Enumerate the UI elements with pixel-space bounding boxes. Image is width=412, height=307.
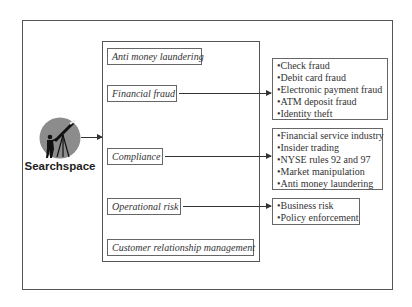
detail-item: Market manipulation xyxy=(277,166,378,178)
telescope-observer-icon xyxy=(39,117,81,159)
searchspace-label: Searchspace xyxy=(14,160,106,172)
category-anti-money-laundering: Anti money laundering xyxy=(107,48,202,65)
compliance-details: Financial service industry Insider tradi… xyxy=(272,128,383,190)
detail-item: Insider trading xyxy=(277,142,378,154)
arrow-compliance xyxy=(165,156,271,157)
detail-item: Electronic payment fraud xyxy=(277,84,383,96)
detail-item: NYSE rules 92 and 97 xyxy=(277,154,378,166)
detail-item: Check fraud xyxy=(277,60,383,72)
detail-item: Business risk xyxy=(277,200,355,212)
arrow-source-to-categories xyxy=(81,137,102,138)
category-operational-risk: Operational risk xyxy=(107,198,181,215)
operational-risk-details: Business risk Policy enforcement xyxy=(272,198,360,225)
detail-item: ATM deposit fraud xyxy=(277,96,383,108)
detail-item: Debit card fraud xyxy=(277,72,383,84)
detail-item: Policy enforcement xyxy=(277,212,355,224)
category-customer-relationship-management: Customer relationship management xyxy=(107,239,254,256)
category-compliance: Compliance xyxy=(107,148,163,165)
financial-fraud-details: Check fraud Debit card fraud Electronic … xyxy=(272,58,388,120)
detail-item: Anti money laundering xyxy=(277,178,378,190)
category-financial-fraud: Financial fraud xyxy=(107,85,177,102)
arrow-financial-fraud xyxy=(179,93,271,94)
detail-item: Identity theft xyxy=(277,108,383,120)
arrow-operational-risk xyxy=(183,206,271,207)
detail-item: Financial service industry xyxy=(277,130,378,142)
